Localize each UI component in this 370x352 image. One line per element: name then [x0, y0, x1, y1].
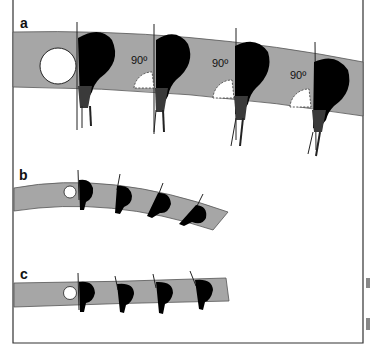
panel-label-a: a	[20, 15, 28, 31]
page-edge-mark	[366, 318, 370, 330]
panel-a: a 90º	[13, 15, 363, 156]
open-circle-b	[64, 186, 76, 198]
panel-c: c	[14, 266, 229, 314]
panel-label-c: c	[20, 266, 28, 282]
panel-label-b: b	[19, 167, 28, 183]
panel-b: b	[14, 167, 228, 230]
page-edge-mark	[366, 278, 370, 288]
diagram-figure: a 90º	[0, 0, 370, 352]
open-circle-c	[64, 287, 77, 300]
angle-label-a-1: 90º	[131, 54, 147, 66]
open-circle-a	[40, 48, 76, 84]
angle-label-a-3: 90º	[290, 69, 306, 81]
flower-c-1	[78, 273, 95, 312]
angle-label-a-2: 90º	[212, 57, 228, 69]
